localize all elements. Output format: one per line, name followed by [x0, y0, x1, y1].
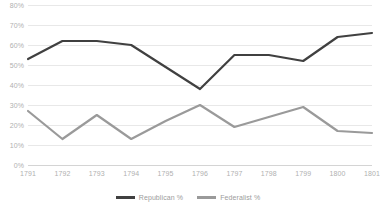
- y-axis-tick-label: 40%: [10, 82, 24, 89]
- x-axis-tick-label: 1798: [261, 170, 277, 177]
- x-axis-tick-label: 1793: [89, 170, 105, 177]
- series-lines: [28, 5, 372, 165]
- y-axis-tick-label: 20%: [10, 122, 24, 129]
- x-axis-tick-label: 1791: [20, 170, 36, 177]
- y-axis-tick-label: 60%: [10, 42, 24, 49]
- x-axis-tick-label: 1794: [123, 170, 139, 177]
- x-axis-tick-label: 1796: [192, 170, 208, 177]
- plot-area: 0%10%20%30%40%50%60%70%80% 1791179217931…: [28, 5, 372, 165]
- legend-label: Federalist %: [220, 194, 260, 201]
- x-axis-line: [28, 165, 372, 166]
- y-axis-tick-label: 10%: [10, 142, 24, 149]
- y-axis-tick-label: 30%: [10, 102, 24, 109]
- y-axis-tick-label: 70%: [10, 22, 24, 29]
- legend-item[interactable]: Federalist %: [197, 194, 260, 201]
- y-axis-tick-label: 0%: [14, 162, 24, 169]
- x-axis-tick-label: 1800: [330, 170, 346, 177]
- series-line: [28, 33, 372, 89]
- chart-legend: Republican %Federalist %: [0, 194, 376, 201]
- x-axis-tick-label: 1797: [226, 170, 242, 177]
- x-axis-tick-label: 1801: [364, 170, 380, 177]
- x-axis-tick-label: 1795: [158, 170, 174, 177]
- legend-label: Republican %: [139, 194, 183, 201]
- legend-swatch-icon: [116, 196, 135, 199]
- series-line: [28, 105, 372, 139]
- legend-item[interactable]: Republican %: [116, 194, 183, 201]
- x-axis-tick-label: 1799: [295, 170, 311, 177]
- x-axis-tick-label: 1792: [54, 170, 70, 177]
- y-axis-tick-label: 50%: [10, 62, 24, 69]
- y-axis-tick-label: 80%: [10, 2, 24, 9]
- legend-swatch-icon: [197, 196, 216, 199]
